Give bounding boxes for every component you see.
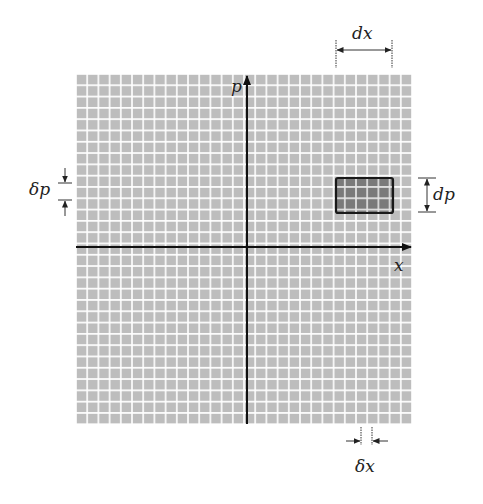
phase-space-grid: [76, 74, 412, 424]
dx-label: dx: [352, 23, 373, 43]
phase-space-diagram: p x dx dp δp δx: [0, 0, 483, 504]
delta-x-dimension: δx: [346, 427, 388, 476]
dx-dimension: dx: [336, 23, 392, 68]
x-axis-label: x: [394, 255, 404, 275]
delta-p-label: δp: [29, 179, 50, 199]
highlight-cell-box: [336, 178, 393, 213]
dp-label: dp: [433, 184, 455, 204]
delta-p-dimension: δp: [29, 168, 72, 216]
delta-x-label: δx: [355, 456, 375, 476]
p-axis-label: p: [231, 76, 242, 96]
dp-dimension: dp: [418, 178, 455, 212]
